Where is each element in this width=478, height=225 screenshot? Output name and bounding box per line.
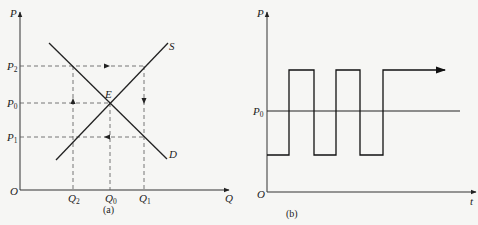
p0-label: P0 bbox=[6, 97, 18, 111]
p0-label-b: P0 bbox=[252, 105, 264, 119]
chart-b: P t O P0 (b) bbox=[252, 7, 476, 220]
chart-a: P Q O P2 P0 P1 Q2 Q0 Q1 S D E (a) bbox=[6, 7, 233, 216]
origin-label: O bbox=[10, 185, 18, 197]
p-axis-label: P bbox=[9, 7, 17, 19]
up-arrow-icon bbox=[71, 98, 76, 104]
caption-a: (a) bbox=[103, 204, 114, 216]
equilibrium-label: E bbox=[104, 88, 112, 100]
figure: P Q O P2 P0 P1 Q2 Q0 Q1 S D E (a) P t O … bbox=[0, 0, 478, 225]
demand-label: D bbox=[168, 148, 177, 160]
demand-curve bbox=[49, 43, 167, 159]
price-square-wave bbox=[267, 70, 445, 155]
caption-b: (b) bbox=[286, 208, 298, 220]
q1-label: Q1 bbox=[139, 192, 151, 206]
p2-label: P2 bbox=[6, 60, 18, 74]
p1-label: P1 bbox=[6, 131, 18, 145]
dashed-guides bbox=[20, 66, 144, 190]
down-arrow-icon bbox=[142, 98, 147, 104]
t-axis-label: t bbox=[470, 195, 474, 207]
left-arrow-icon bbox=[104, 135, 110, 140]
supply-label: S bbox=[169, 40, 175, 52]
origin-label-b: O bbox=[257, 188, 265, 200]
q2-label: Q2 bbox=[68, 192, 80, 206]
q-axis-label: Q bbox=[225, 192, 233, 204]
p-axis-label-b: P bbox=[256, 7, 264, 19]
right-arrow-icon bbox=[104, 64, 110, 69]
